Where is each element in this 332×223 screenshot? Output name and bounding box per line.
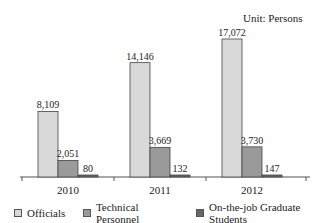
legend-item-technical-personnel: Technical Personnel xyxy=(83,201,178,223)
bar-value-label: 2,051 xyxy=(57,148,80,159)
bar-value-label: 80 xyxy=(83,163,93,174)
x-axis-category-label: 2011 xyxy=(149,184,171,196)
bar xyxy=(130,63,150,177)
bar-value-label: 3,669 xyxy=(149,135,172,146)
legend-item-officials: Officials xyxy=(14,207,65,219)
bar-value-label: 14,146 xyxy=(126,51,154,62)
legend-label-technical-personnel: Technical Personnel xyxy=(96,201,179,223)
x-axis-category-label: 2012 xyxy=(241,184,263,196)
x-axis-category-label: 2010 xyxy=(57,184,80,196)
unit-label: Unit: Persons xyxy=(243,12,303,24)
bar-value-label: 8,109 xyxy=(37,99,60,110)
bar xyxy=(170,175,190,177)
bar-chart: 8,1092,05180201014,1463,669132201117,072… xyxy=(0,0,332,223)
legend: Officials Technical Personnel On-the-job… xyxy=(14,201,332,223)
bar-value-label: 132 xyxy=(173,163,188,174)
bar xyxy=(262,175,282,177)
bar-value-label: 147 xyxy=(265,163,280,174)
bar xyxy=(58,160,78,177)
bar-value-label: 17,072 xyxy=(218,27,246,38)
legend-swatch-graduate-students xyxy=(196,209,204,217)
legend-swatch-technical-personnel xyxy=(83,209,91,217)
legend-label-graduate-students: On-the-job Graduate Students xyxy=(209,201,332,223)
bar xyxy=(78,175,98,177)
legend-swatch-officials xyxy=(14,209,22,217)
bar xyxy=(150,147,170,177)
legend-item-graduate-students: On-the-job Graduate Students xyxy=(196,201,332,223)
bar xyxy=(242,147,262,177)
bar xyxy=(38,111,58,177)
bar xyxy=(222,39,242,177)
legend-label-officials: Officials xyxy=(27,207,65,219)
bar-value-label: 3,730 xyxy=(241,135,264,146)
